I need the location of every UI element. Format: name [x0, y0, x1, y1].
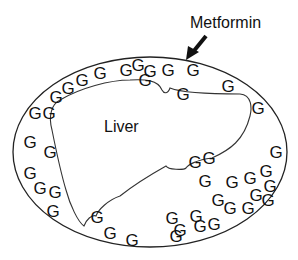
glucose-molecule: G — [207, 215, 220, 234]
glucose-molecule: G — [188, 153, 201, 172]
glucose-molecule: G — [90, 208, 103, 227]
metformin-liver-diagram: Metformin Liver GGGGGGGGGGGGGGGGGGGGGGGG… — [0, 0, 298, 260]
metformin-arrow-shaft — [193, 36, 206, 52]
metformin-label: Metformin — [190, 14, 261, 31]
glucose-molecule: G — [33, 179, 46, 198]
glucose-molecule: G — [198, 172, 211, 191]
glucose-molecule: G — [161, 61, 174, 80]
glucose-molecule: G — [125, 231, 138, 250]
glucose-molecule: G — [221, 77, 234, 96]
glucose-molecule: G — [202, 149, 215, 168]
glucose-molecule: G — [193, 217, 206, 236]
glucose-molecule: G — [169, 227, 182, 246]
glucose-molecule: G — [251, 99, 264, 118]
glucose-molecule: G — [28, 104, 41, 123]
glucose-molecule: G — [43, 143, 56, 162]
liver-label: Liver — [104, 118, 139, 135]
glucose-molecule: G — [261, 191, 274, 210]
glucose-molecule: G — [176, 85, 189, 104]
glucose-molecule: G — [46, 202, 59, 221]
glucose-molecule: G — [223, 199, 236, 218]
glucose-molecule: G — [269, 143, 282, 162]
glucose-molecule: G — [93, 64, 106, 83]
glucose-molecule: G — [103, 224, 116, 243]
glucose-molecule: G — [48, 183, 61, 202]
glucose-molecules: GGGGGGGGGGGGGGGGGGGGGGGGGGGGGGGGGGGGGGGG… — [23, 56, 282, 250]
glucose-molecule: G — [61, 79, 74, 98]
glucose-molecule: G — [138, 71, 151, 90]
glucose-molecule: G — [225, 173, 238, 192]
glucose-molecule: G — [75, 71, 88, 90]
glucose-molecule: G — [23, 133, 36, 152]
glucose-molecule: G — [42, 104, 55, 123]
glucose-molecule: G — [186, 61, 199, 80]
